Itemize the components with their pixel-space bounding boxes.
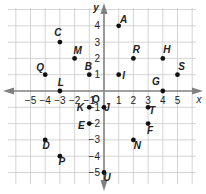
y-tick-label: −5: [89, 167, 101, 178]
point-t: T: [146, 105, 156, 116]
point-j: J: [102, 102, 111, 113]
point-marker-icon: [160, 56, 165, 61]
point-label: K: [77, 102, 85, 113]
point-marker-icon: [87, 72, 92, 77]
point-marker-icon: [160, 89, 165, 94]
y-tick-label: −4: [89, 151, 101, 162]
x-axis-arrow-left-icon: [3, 88, 14, 95]
point-i: I: [116, 70, 125, 81]
point-label: S: [178, 61, 185, 72]
y-axis-label: y: [92, 2, 99, 13]
point-label: C: [54, 27, 62, 38]
point-marker-icon: [116, 72, 121, 77]
y-tick-label: 4: [94, 20, 100, 31]
y-axis-arrow-up-icon: [101, 3, 108, 14]
x-tick-label: 5: [175, 95, 181, 106]
point-marker-icon: [131, 56, 136, 61]
point-label: J: [104, 102, 110, 113]
y-tick-label: 1: [94, 69, 100, 80]
point-d: D: [43, 138, 50, 151]
point-u: U: [102, 170, 112, 182]
point-label: G: [152, 76, 160, 87]
point-label: A: [119, 14, 127, 25]
point-label: Q: [36, 62, 44, 73]
point-label: U: [103, 172, 111, 183]
point-label: L: [58, 77, 64, 88]
x-tick-label: 1: [116, 95, 122, 106]
coordinate-plane: −5−4−3−2−1123454321−1−2−3−4−5 x y O ACMR…: [0, 0, 206, 194]
point-label: B: [85, 61, 92, 72]
y-tick-label: −3: [89, 134, 101, 145]
origin-label: O: [92, 94, 100, 105]
point-label: T: [149, 105, 156, 116]
point-marker-icon: [175, 72, 180, 77]
x-tick-label: −3: [54, 95, 66, 106]
point-marker-icon: [58, 89, 63, 94]
point-marker-icon: [87, 121, 92, 126]
point-label: D: [43, 140, 50, 151]
point-label: P: [59, 156, 66, 167]
x-axis-label: x: [196, 94, 203, 105]
point-label: F: [147, 125, 154, 136]
point-marker-icon: [72, 56, 77, 61]
point-marker-icon: [87, 105, 92, 110]
point-marker-icon: [58, 40, 63, 45]
point-label: I: [122, 70, 125, 81]
point-label: N: [134, 140, 142, 151]
point-label: H: [163, 44, 171, 55]
tick-labels: −5−4−3−2−1123454321−1−2−3−4−5: [25, 20, 181, 178]
point-marker-icon: [43, 72, 48, 77]
x-tick-label: −5: [25, 95, 37, 106]
point-label: E: [78, 120, 85, 131]
x-tick-label: −4: [39, 95, 51, 106]
point-label: R: [133, 44, 141, 55]
y-tick-label: 3: [94, 37, 100, 48]
point-n: N: [131, 138, 142, 151]
point-p: P: [58, 154, 66, 167]
x-tick-label: 4: [160, 95, 166, 106]
y-tick-label: 2: [94, 53, 100, 64]
x-tick-label: 2: [131, 95, 137, 106]
point-label: M: [73, 45, 82, 56]
